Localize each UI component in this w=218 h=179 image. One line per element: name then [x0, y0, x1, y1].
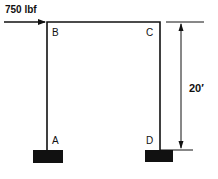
dimension-label: 20′: [189, 82, 204, 94]
load-label: 750 lbf: [5, 4, 37, 15]
node-label-d: D: [146, 135, 153, 146]
frame: [47, 22, 160, 150]
support-d: [145, 150, 173, 162]
node-label-b: B: [52, 27, 59, 38]
support-a: [33, 150, 63, 163]
portal-frame-diagram: 750 lbf B C A D 20′: [0, 0, 218, 179]
node-label-c: C: [146, 27, 153, 38]
node-label-a: A: [52, 135, 59, 146]
